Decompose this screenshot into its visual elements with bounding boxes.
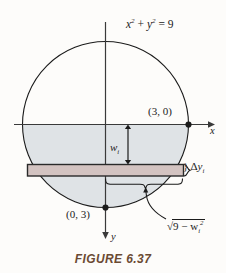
delta-glyph: Δ (190, 160, 197, 172)
figure-container: x2 + y2 = 9 (3, 0) (0, 3) x y wi } Δyi √… (0, 0, 226, 273)
point-dot-0-3 (102, 204, 108, 210)
radicand-subscript: i (198, 227, 200, 234)
point-label-0-3: (0, 3) (66, 209, 90, 220)
brace-glyph: } (183, 160, 188, 172)
equation-rhs: = 9 (158, 18, 173, 30)
equation-x-exponent: 2 (131, 17, 135, 25)
depth-subscript: i (117, 148, 119, 155)
equation-y-exponent: 2 (152, 17, 156, 25)
point-dot-3-0 (185, 121, 191, 127)
x-axis-label: x (210, 126, 215, 137)
radicand: 9 − wi2 (172, 219, 204, 235)
representative-slab (28, 165, 184, 177)
equation-plus: + (138, 18, 145, 30)
figure-caption: FIGURE 6.37 (0, 252, 226, 266)
radicand-exponent: 2 (200, 219, 203, 226)
y-axis-label: y (111, 232, 116, 243)
half-width-label: √9 − wi2 (167, 219, 205, 235)
thickness-subscript: i (202, 167, 204, 174)
radicand-lead: 9 − w (173, 220, 198, 232)
point-label-3-0: (3, 0) (148, 106, 172, 117)
depth-label: wi (110, 142, 119, 156)
thickness-label: } Δyi (183, 161, 204, 175)
circle-equation-label: x2 + y2 = 9 (126, 18, 174, 30)
